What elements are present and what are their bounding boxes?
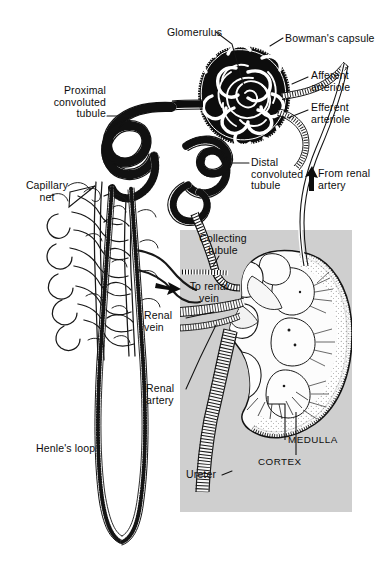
label-henles-loop: Henle's loop (36, 443, 95, 455)
bowmans-capsule-and-glomerulus (172, 45, 290, 145)
label-proximal-convoluted-tubule: Proximal convoluted tubule (38, 85, 106, 120)
label-to-renal-vein: To renal vein (185, 281, 233, 304)
label-from-renal-artery: From renal artery (318, 168, 370, 191)
label-afferent-arteriole: Afferent arteriole (311, 70, 350, 93)
label-renal-artery: Renal artery (146, 383, 174, 406)
label-bowmans-capsule: Bowman's capsule (285, 33, 375, 45)
label-glomerulus: Glomerulus (167, 27, 222, 39)
label-cortex: CORTEX (258, 456, 302, 468)
nephron-diagram-figure: Glomerulus Bowman's capsule Afferent art… (0, 0, 388, 579)
label-distal-convoluted-tubule: Distal convoluted tubule (251, 157, 303, 192)
distal-convoluted-tubule-vessel (168, 136, 233, 226)
label-collecting-tubule: Collecting tubule (193, 233, 253, 256)
proximal-convoluted-tubule-vessel (102, 102, 172, 198)
arrow-to-renal-vein (155, 282, 181, 295)
label-medulla: MEDULLA (288, 434, 338, 446)
label-renal-vein: Renal vein (144, 310, 172, 333)
label-capillary-net: Capillary net (18, 180, 76, 203)
label-ureter: Ureter (186, 469, 216, 481)
label-efferent-arteriole: Efferent arteriole (311, 102, 350, 125)
